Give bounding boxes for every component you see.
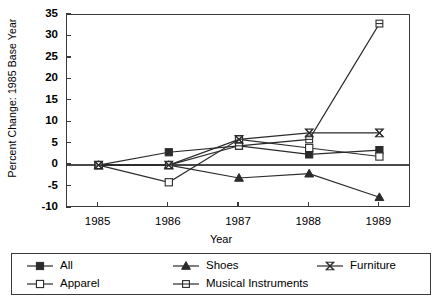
series-musical-instruments [95,20,383,168]
x-tick-label: 1986 [138,216,198,228]
data-point-filled-square [36,262,43,269]
y-tick-mark [66,35,71,36]
x-tick-label: 1985 [68,216,128,228]
y-tick-mark [66,99,71,100]
legend-marker-filled-square [26,259,54,273]
y-tick-label: 5 [18,137,58,149]
data-point-filled-square [165,149,172,156]
x-tick-mark [308,202,309,207]
y-tick-mark [66,142,71,143]
data-point-open-square [36,280,43,287]
data-point-open-square [376,153,383,160]
x-tick-label: 1989 [348,216,408,228]
legend-entry-musical-instruments[interactable]: Musical Instruments [172,276,308,292]
legend-label: Furniture [350,260,396,272]
data-point-open-square-dash [376,20,383,27]
y-tick-mark [66,121,71,122]
y-tick-mark [66,78,71,79]
x-tick-mark [237,202,238,207]
plot-area [66,14,410,207]
series-shoes [94,161,384,201]
data-point-filled-triangle [305,169,314,177]
y-tick-mark [66,185,71,186]
y-tick-mark [66,56,71,57]
legend-entry-apparel[interactable]: Apparel [26,276,100,292]
y-tick-mark [66,13,71,14]
legend-label: Shoes [206,260,239,272]
y-tick-mark [66,206,71,207]
legend-label: All [60,260,73,272]
legend-label: Apparel [60,278,100,290]
legend-entry-shoes[interactable]: Shoes [172,258,239,274]
y-tick-label: 0 [18,158,58,170]
chart-legend: AllShoesFurnitureApparelMusical Instrume… [11,253,431,295]
legend-marker-filled-triangle [172,259,200,273]
y-tick-label: 20 [18,72,58,84]
x-tick-mark [167,202,168,207]
x-tick-label: 1987 [208,216,268,228]
data-point-open-square [165,179,172,186]
y-tick-label: 30 [18,29,58,41]
y-tick-label: 10 [18,115,58,127]
y-tick-label: -5 [18,180,58,192]
legend-entry-furniture[interactable]: Furniture [316,258,396,274]
data-point-open-square-dash [183,281,190,288]
x-axis-title: Year [0,233,442,245]
y-tick-label: 35 [18,8,58,20]
data-point-open-square [306,144,313,151]
y-tick-label: -10 [18,201,58,213]
y-tick-mark [66,163,71,164]
legend-label: Musical Instruments [206,278,308,290]
legend-marker-hourglass-x [316,259,344,273]
legend-entry-all[interactable]: All [26,258,73,274]
chart-figure: Percent Change: 1985 Base Year 353025201… [0,0,442,301]
x-tick-mark [97,202,98,207]
y-tick-label: 15 [18,94,58,106]
legend-marker-open-square-dash [172,277,200,291]
y-axis-title: Percent Change: 1985 Base Year [6,0,18,198]
y-tick-label: 25 [18,51,58,63]
series-layer [67,15,411,208]
x-tick-mark [378,202,379,207]
x-tick-label: 1988 [278,216,338,228]
legend-marker-open-square [26,277,54,291]
